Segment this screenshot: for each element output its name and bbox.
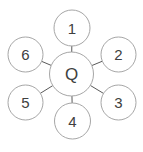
satellite-node-5-label: 5 — [21, 94, 29, 111]
satellite-node-3: 3 — [101, 85, 136, 120]
center-node: Q — [50, 52, 94, 96]
connector-line-2 — [92, 61, 103, 65]
center-node-label: Q — [65, 65, 78, 84]
connector-line-6 — [42, 61, 52, 65]
connector-line-5 — [40, 86, 52, 94]
hub-spoke-diagram: Q 1 2 3 4 5 6 — [0, 0, 143, 152]
satellite-node-3-label: 3 — [114, 94, 122, 111]
satellite-node-6: 6 — [8, 37, 43, 72]
satellite-node-6-label: 6 — [21, 46, 29, 63]
satellite-node-1-label: 1 — [68, 20, 76, 37]
satellite-node-4: 4 — [55, 103, 91, 139]
nodes: Q 1 2 3 4 5 6 — [8, 10, 136, 139]
satellite-node-2: 2 — [101, 37, 136, 72]
satellite-node-4-label: 4 — [68, 113, 76, 130]
connector-line-3 — [90, 85, 103, 93]
satellite-node-5: 5 — [8, 85, 43, 120]
satellite-node-1: 1 — [54, 10, 90, 46]
satellite-node-2-label: 2 — [114, 46, 122, 63]
